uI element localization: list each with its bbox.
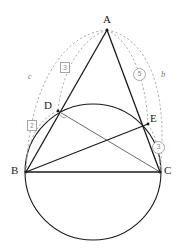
segment-AB [26,30,107,172]
arc-label-2: 2 [27,120,37,131]
arc-label-5: 5 [133,68,146,81]
point-label-C: C [164,165,171,176]
arc-label-b: b [161,70,165,79]
point-label-E: E [150,113,157,124]
segment-BE [26,124,148,172]
vertex-dot-B [25,171,28,174]
vertex-dot-E [147,123,150,126]
vertex-dot-C [159,171,162,174]
segment-DC [58,111,160,172]
point-label-D: D [44,100,52,111]
arc-label-c: c [28,72,32,81]
arc-label-3-right: 3 [152,141,165,154]
point-label-B: B [11,165,18,176]
arc-label-3-left: 3 [60,62,70,73]
vertex-dot-D [57,110,60,113]
vertex-dot-A [106,29,109,32]
geometry-figure: A B C D E c 3 2 5 b 3 [0,0,185,252]
point-label-A: A [103,14,111,25]
